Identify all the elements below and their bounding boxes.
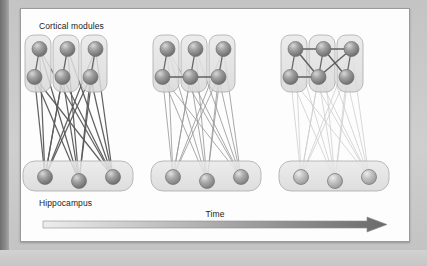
cortical-node bbox=[155, 70, 170, 85]
cortical-node bbox=[83, 70, 98, 85]
figure-frame-bottom-band bbox=[0, 250, 427, 266]
figure-frame-left-stripe bbox=[0, 0, 9, 250]
hippocampal-node bbox=[362, 170, 377, 185]
time-arrow bbox=[43, 217, 387, 232]
cortical-node bbox=[88, 42, 103, 57]
cortical-node bbox=[60, 42, 75, 57]
cortical-node bbox=[344, 42, 359, 57]
cortical-node bbox=[160, 42, 175, 57]
panels-layer bbox=[23, 35, 389, 191]
cortical-node bbox=[216, 42, 231, 57]
cortical-node bbox=[183, 70, 198, 85]
panel-early bbox=[23, 35, 133, 191]
label-time-axis: Time bbox=[21, 209, 409, 219]
cortical-node bbox=[188, 42, 203, 57]
hippocampal-node bbox=[234, 170, 249, 185]
cortical-node bbox=[316, 42, 331, 57]
hippocampal-node bbox=[38, 170, 53, 185]
cortical-node bbox=[211, 70, 226, 85]
cortical-node bbox=[339, 70, 354, 85]
cortical-node bbox=[27, 70, 42, 85]
hippocampal-node bbox=[200, 174, 215, 189]
label-cortical-modules: Cortical modules bbox=[39, 21, 104, 31]
cortical-node bbox=[55, 70, 70, 85]
cortical-node bbox=[283, 70, 298, 85]
figure-canvas: Cortical modules Hippocampus Time bbox=[20, 8, 410, 242]
hippocampal-node bbox=[166, 170, 181, 185]
hippocampal-node bbox=[106, 170, 121, 185]
hippocampal-node bbox=[72, 174, 87, 189]
hippocampal-node bbox=[328, 174, 343, 189]
panel-intermediate bbox=[151, 35, 261, 191]
label-hippocampus: Hippocampus bbox=[39, 198, 92, 208]
hippocampal-node bbox=[294, 170, 309, 185]
cortical-node bbox=[311, 70, 326, 85]
figure-root: Cortical modules Hippocampus Time bbox=[0, 0, 427, 266]
cortical-node bbox=[32, 42, 47, 57]
cortical-node bbox=[288, 42, 303, 57]
panel-late bbox=[279, 35, 389, 191]
